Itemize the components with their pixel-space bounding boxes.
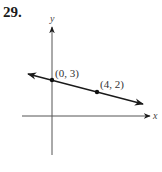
coordinate-plot: (0, 3) (4, 2) x y (0, 0, 162, 172)
point-label-0-3: (0, 3) (55, 67, 79, 80)
point-label-4-2: (4, 2) (100, 78, 124, 91)
point-4-2 (95, 90, 99, 94)
point-0-3 (50, 78, 54, 82)
x-axis-label: x (152, 110, 158, 121)
y-axis-label: y (49, 13, 55, 24)
graph-line (28, 74, 143, 104)
